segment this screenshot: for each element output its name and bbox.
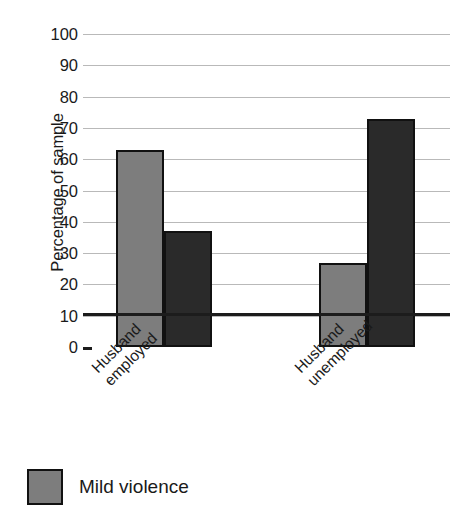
y-axis-tick-mark	[83, 222, 92, 223]
bar-chart-figure: Percentage of sample 1009080706050403020…	[0, 0, 458, 517]
y-axis-tick-mark	[83, 159, 92, 160]
gridline	[92, 65, 450, 66]
y-axis-tick-mark	[83, 65, 92, 66]
bar	[116, 150, 164, 347]
legend-label-mild-violence: Mild violence	[79, 476, 189, 498]
y-axis-tick-label: 50	[18, 182, 78, 199]
gridline	[92, 34, 450, 35]
y-axis-tick-label: 90	[18, 57, 78, 74]
legend: Mild violence	[27, 469, 189, 505]
y-axis-tick-mark	[83, 128, 92, 129]
y-axis-tick-label: 60	[18, 151, 78, 168]
y-axis-tick-label: 0	[18, 339, 78, 356]
legend-swatch-mild-violence	[27, 469, 63, 505]
bar	[164, 231, 212, 347]
legend-item: Mild violence	[27, 469, 189, 505]
gridline	[92, 97, 450, 98]
y-axis-tick-label: 100	[18, 26, 78, 43]
y-axis-tick-label: 80	[18, 88, 78, 105]
y-axis-tick-label: 20	[18, 276, 78, 293]
y-axis-tick-mark	[83, 191, 92, 192]
y-axis-tick-mark	[83, 284, 92, 285]
y-axis-tick-mark	[83, 253, 92, 254]
y-axis-tick-label: 70	[18, 120, 78, 137]
y-axis-tick-mark	[83, 97, 92, 98]
y-axis-tick-mark	[83, 347, 92, 350]
y-axis-tick-label: 40	[18, 214, 78, 231]
y-axis-tick-mark	[83, 34, 92, 35]
plot-area	[92, 34, 450, 347]
x-axis-line	[83, 313, 450, 316]
y-axis-tick-label: 30	[18, 245, 78, 262]
y-axis-tick-label: 10	[18, 307, 78, 324]
